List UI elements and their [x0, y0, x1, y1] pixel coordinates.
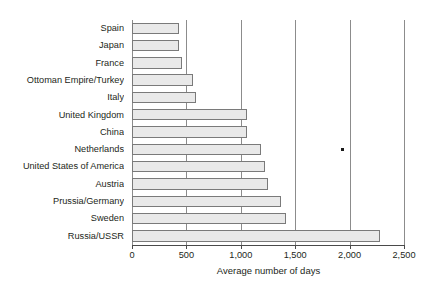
bar[interactable]: [132, 23, 179, 34]
category-label: Italy: [0, 89, 124, 106]
x-tick: [350, 245, 351, 249]
bar[interactable]: [132, 74, 193, 85]
bar-row: [132, 72, 404, 89]
bar-row: [132, 124, 404, 141]
bar[interactable]: [132, 144, 261, 155]
bar[interactable]: [132, 213, 286, 224]
bar[interactable]: [132, 109, 247, 120]
bar-row: [132, 37, 404, 54]
x-tick: [404, 245, 405, 249]
bar[interactable]: [132, 196, 281, 207]
x-axis-line: [132, 245, 405, 246]
gridline: [404, 20, 405, 245]
category-label: Netherlands: [0, 141, 124, 158]
bar-row: [132, 210, 404, 227]
category-label: United States of America: [0, 158, 124, 175]
bar-row: [132, 158, 404, 175]
bar-row: [132, 20, 404, 37]
category-label: Prussia/Germany: [0, 193, 124, 210]
x-tick-label: 0: [110, 250, 154, 260]
bar[interactable]: [132, 40, 179, 51]
category-label: Sweden: [0, 210, 124, 227]
stray-point-marker: [341, 148, 344, 151]
bar[interactable]: [132, 126, 247, 137]
x-tick-label: 1,000: [219, 250, 263, 260]
bar-row: [132, 193, 404, 210]
bar-row: [132, 89, 404, 106]
category-label: France: [0, 55, 124, 72]
bar[interactable]: [132, 92, 196, 103]
x-tick: [186, 245, 187, 249]
bar-row: [132, 141, 404, 158]
category-label: Austria: [0, 176, 124, 193]
bar-row: [132, 55, 404, 72]
bar[interactable]: [132, 230, 380, 241]
x-tick-label: 1,500: [273, 250, 317, 260]
x-tick: [241, 245, 242, 249]
x-tick: [132, 245, 133, 249]
x-tick-label: 500: [164, 250, 208, 260]
x-tick-label: 2,000: [328, 250, 372, 260]
bar-row: [132, 176, 404, 193]
category-label: Ottoman Empire/Turkey: [0, 72, 124, 89]
bar-row: [132, 228, 404, 245]
category-label: Spain: [0, 20, 124, 37]
x-axis-title: Average number of days: [132, 265, 405, 276]
category-label: United Kingdom: [0, 107, 124, 124]
bar[interactable]: [132, 57, 182, 68]
bar-chart: SpainJapanFranceOttoman Empire/TurkeyIta…: [0, 0, 428, 294]
bar-series: [132, 20, 404, 245]
category-label: Russia/USSR: [0, 228, 124, 245]
category-label: China: [0, 124, 124, 141]
plot-area: [132, 20, 404, 245]
category-label: Japan: [0, 37, 124, 54]
x-tick-label: 2,500: [382, 250, 426, 260]
x-tick: [295, 245, 296, 249]
bar-row: [132, 107, 404, 124]
category-axis-labels: SpainJapanFranceOttoman Empire/TurkeyIta…: [0, 20, 128, 245]
bar[interactable]: [132, 178, 268, 189]
bar[interactable]: [132, 161, 265, 172]
